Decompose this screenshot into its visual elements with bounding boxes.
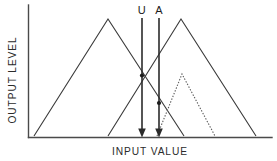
chart-canvas: U A OUTPUT LEVEL INPUT VALUE bbox=[0, 0, 277, 161]
membership-function-right bbox=[108, 19, 256, 136]
marker-a-intersection-dot bbox=[157, 101, 161, 105]
membership-function-left bbox=[34, 19, 184, 136]
membership-function-clipped bbox=[157, 74, 215, 136]
marker-u-arrowhead bbox=[138, 129, 146, 138]
marker-u-label: U bbox=[138, 4, 146, 16]
y-axis-title: OUTPUT LEVEL bbox=[7, 36, 18, 123]
x-axis-title: INPUT VALUE bbox=[112, 146, 188, 157]
fuzzy-membership-chart: U A OUTPUT LEVEL INPUT VALUE bbox=[0, 0, 277, 161]
marker-a-label: A bbox=[155, 4, 163, 16]
marker-u-intersection-dot bbox=[140, 73, 144, 77]
marker-a-arrowhead bbox=[155, 129, 163, 138]
